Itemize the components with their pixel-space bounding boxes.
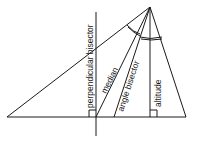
angle-arc-right-inner <box>141 39 162 40</box>
label-median: median <box>99 65 120 95</box>
angle-arc-right-outer <box>140 37 162 39</box>
right-angle-marker-perp <box>89 110 96 117</box>
label-altitude: altitude <box>153 79 163 107</box>
label-angle-bisector: angle bisector <box>115 59 141 113</box>
triangle-diagram: perpendicular bisector median angle bise… <box>0 0 197 146</box>
right-angle-marker-alt <box>150 110 157 117</box>
label-perpendicular-bisector: perpendicular bisector <box>85 24 95 108</box>
angle-arc-left-outer <box>127 25 140 34</box>
